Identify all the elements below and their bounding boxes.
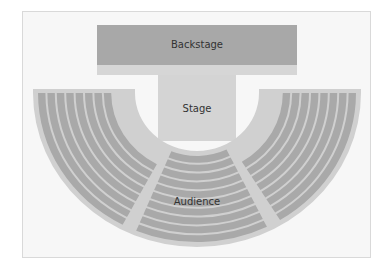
stage-label: Stage [183, 103, 212, 114]
section-top-edge [33, 89, 135, 93]
section-top-edge [259, 89, 361, 93]
audience-label: Audience [174, 196, 220, 207]
seating-plan-diagram: Backstage Stage Audience [0, 0, 381, 270]
backstage-strip [97, 65, 297, 75]
backstage-label: Backstage [171, 39, 223, 50]
